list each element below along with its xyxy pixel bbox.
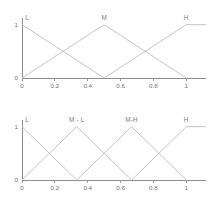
set-label-l: L bbox=[25, 116, 29, 123]
chart-canvas-bottom: 00.20.40.60.8101LM - LM-HH bbox=[0, 100, 216, 204]
y-tick-label: 1 bbox=[15, 123, 19, 130]
set-label-m: M bbox=[101, 14, 107, 21]
set-label-l: L bbox=[25, 14, 29, 21]
membership-curve-h bbox=[132, 127, 206, 180]
membership-chart-four-sets: 00.20.40.60.8101LM - LM-HH bbox=[0, 100, 216, 204]
y-tick-label: 0 bbox=[15, 176, 19, 183]
x-tick-label: 0 bbox=[20, 184, 24, 191]
x-tick-label: 0.4 bbox=[83, 82, 92, 89]
y-tick-label: 1 bbox=[15, 21, 19, 28]
x-tick-label: 1 bbox=[185, 184, 189, 191]
x-tick-label: 0.6 bbox=[116, 184, 125, 191]
membership-curve-m bbox=[22, 25, 186, 78]
set-label-ml: M - L bbox=[69, 116, 85, 123]
x-tick-label: 0.2 bbox=[51, 82, 60, 89]
membership-curve-mh bbox=[77, 127, 187, 180]
x-tick-label: 0.4 bbox=[83, 184, 92, 191]
x-tick-label: 1 bbox=[185, 82, 189, 89]
x-tick-label: 0.8 bbox=[149, 82, 158, 89]
y-tick-label: 0 bbox=[15, 74, 19, 81]
x-tick-label: 0.6 bbox=[116, 82, 125, 89]
set-label-h: H bbox=[184, 14, 189, 21]
chart-canvas-top: 00.20.40.60.8101LMH bbox=[0, 0, 216, 102]
set-label-h: H bbox=[184, 116, 189, 123]
membership-curve-ml bbox=[22, 127, 132, 180]
x-tick-label: 0.2 bbox=[51, 184, 60, 191]
membership-curve-h bbox=[104, 25, 206, 78]
membership-chart-three-sets: 00.20.40.60.8101LMH bbox=[0, 0, 216, 102]
set-label-mh: M-H bbox=[125, 116, 138, 123]
x-tick-label: 0.8 bbox=[149, 184, 158, 191]
x-tick-label: 0 bbox=[20, 82, 24, 89]
